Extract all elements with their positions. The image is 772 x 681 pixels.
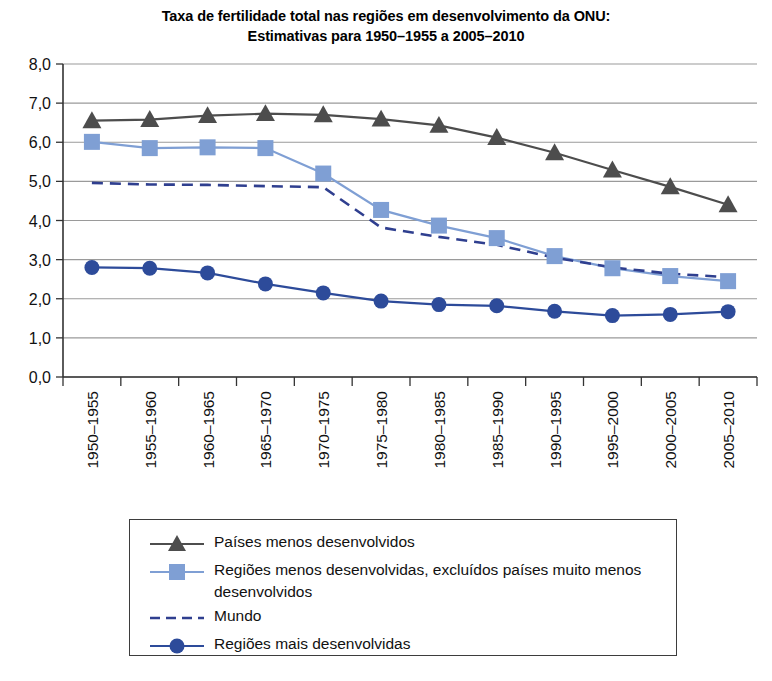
data-point-square <box>84 134 100 150</box>
x-axis-tick-label: 1955–1960 <box>142 391 159 469</box>
data-point-square <box>257 140 273 156</box>
y-axis-tick-label: 3,0 <box>29 252 51 269</box>
data-point-circle <box>605 308 620 323</box>
legend-circle <box>170 639 185 654</box>
legend-item-label: Mundo <box>206 605 261 627</box>
data-point-circle <box>489 298 504 313</box>
data-point-square <box>489 230 505 246</box>
data-point-square <box>142 140 158 156</box>
legend-item-label: Regiões mais desenvolvidas <box>206 633 410 655</box>
series-line-0 <box>92 114 728 205</box>
data-point-triangle <box>256 104 275 121</box>
legend-item-label: Regiões menos desenvolvidas, excluídos p… <box>206 559 664 603</box>
legend-marker-square-icon <box>148 559 206 585</box>
data-point-square <box>720 273 736 289</box>
data-point-circle <box>258 276 273 291</box>
data-point-circle <box>431 297 446 312</box>
x-axis-tick-label: 1965–1970 <box>257 391 274 469</box>
data-point-circle <box>316 285 331 300</box>
x-axis-tick-label: 1995–2000 <box>604 391 621 469</box>
legend-item[interactable]: Regiões mais desenvolvidas <box>148 633 664 659</box>
data-point-square <box>200 139 216 155</box>
x-axis-tick-label: 1960–1965 <box>200 391 217 469</box>
x-axis-tick-label: 2000–2005 <box>662 391 679 469</box>
y-axis-tick-label: 8,0 <box>29 56 51 73</box>
legend-item[interactable]: Mundo <box>148 605 664 631</box>
legend-item-label: Países menos desenvolvidos <box>206 531 415 553</box>
data-point-square <box>604 260 620 276</box>
legend-item[interactable]: Regiões menos desenvolvidas, excluídos p… <box>148 559 664 603</box>
x-axis-tick-label: 1975–1980 <box>373 391 390 469</box>
data-point-square <box>662 268 678 284</box>
x-axis-tick-label: 1985–1990 <box>489 391 506 469</box>
y-axis-tick-label: 6,0 <box>29 134 51 151</box>
series-line-3 <box>92 267 728 315</box>
x-axis-tick-label: 1980–1985 <box>431 391 448 469</box>
y-axis-tick-label: 0,0 <box>29 369 51 386</box>
data-point-circle <box>200 265 215 280</box>
x-axis-tick-label: 1950–1955 <box>84 391 101 469</box>
data-point-circle <box>663 307 678 322</box>
chart-legend: Países menos desenvolvidosRegiões menos … <box>129 519 677 656</box>
x-axis-tick-label: 2005–2010 <box>720 391 737 469</box>
series-line-1 <box>92 142 728 281</box>
x-axis-tick-label: 1970–1975 <box>315 391 332 469</box>
data-point-square <box>315 166 331 182</box>
data-point-circle <box>84 260 99 275</box>
legend-marker-none-icon <box>148 605 206 631</box>
data-point-circle <box>547 304 562 319</box>
data-point-circle <box>721 304 736 319</box>
series-line-2 <box>92 183 728 277</box>
y-axis-tick-label: 5,0 <box>29 173 51 190</box>
y-axis-tick-label: 7,0 <box>29 95 51 112</box>
legend-item[interactable]: Países menos desenvolvidos <box>148 531 664 557</box>
data-point-circle <box>374 294 389 309</box>
data-point-square <box>373 202 389 218</box>
data-point-square <box>431 218 447 234</box>
legend-marker-circle-icon <box>148 633 206 659</box>
x-axis-tick-label: 1990–1995 <box>547 391 564 469</box>
y-axis-tick-label: 4,0 <box>29 213 51 230</box>
y-axis-tick-label: 2,0 <box>29 291 51 308</box>
y-axis-tick-label: 1,0 <box>29 330 51 347</box>
legend-square <box>169 564 185 580</box>
data-point-circle <box>142 261 157 276</box>
legend-marker-triangle-icon <box>148 531 206 557</box>
plot-area: 8,07,06,05,04,03,02,01,00,01950–19551955… <box>0 0 772 515</box>
chart-container: Taxa de fertilidade total nas regiões em… <box>0 0 772 681</box>
data-point-square <box>547 248 563 264</box>
